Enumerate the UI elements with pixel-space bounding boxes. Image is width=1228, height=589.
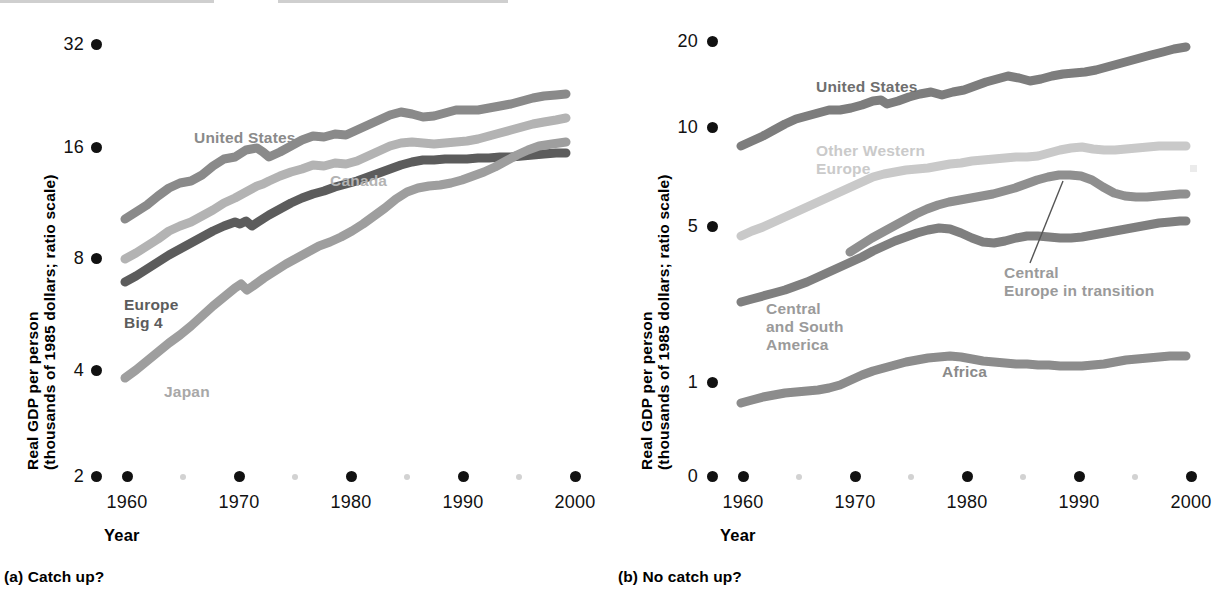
panel-a-label-united-states: United States bbox=[194, 129, 296, 147]
panel-b: Real GDP per person (thousands of 1985 d… bbox=[614, 0, 1228, 589]
panel-a-plot bbox=[0, 0, 614, 589]
panel-a-label-europe-big-4: Europe Big 4 bbox=[124, 296, 179, 332]
panel-b-caption: (b) No catch up? bbox=[618, 568, 742, 586]
panel-b-label-central-europe-in-transition: Central Europe in transition bbox=[1004, 264, 1154, 300]
panel-b-label-other-western-europe: Other Western Europe bbox=[816, 142, 925, 178]
panel-b-label-africa: Africa bbox=[942, 363, 987, 381]
panel-a-caption: (a) Catch up? bbox=[4, 568, 104, 586]
figure-root: Real GDP per person (thousands of 1985 d… bbox=[0, 0, 1228, 589]
panel-b-label-united-states: United States bbox=[816, 78, 918, 96]
panel-a-label-japan: Japan bbox=[164, 383, 210, 401]
panel-a: Real GDP per person (thousands of 1985 d… bbox=[0, 0, 614, 589]
series-path-united-states bbox=[741, 47, 1186, 146]
callout-line-central-europe bbox=[1030, 181, 1063, 263]
panel-a-label-canada: Canada bbox=[330, 172, 387, 190]
panel-b-label-central-and-south-america: Central and South America bbox=[766, 300, 844, 353]
